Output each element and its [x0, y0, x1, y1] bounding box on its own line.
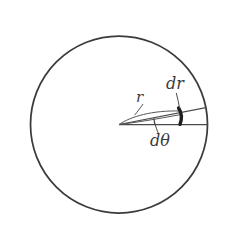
radius-angled-line	[119, 108, 206, 125]
diagram-canvas	[0, 0, 235, 248]
label-radial-increment: dr	[166, 76, 184, 92]
label-radius: r	[136, 90, 143, 105]
label-angular-increment: dθ	[150, 133, 170, 149]
thick-arc-dr	[179, 108, 182, 124]
dr-leader-line	[176, 93, 179, 108]
polar-element-diagram: r dr dθ	[0, 0, 235, 248]
